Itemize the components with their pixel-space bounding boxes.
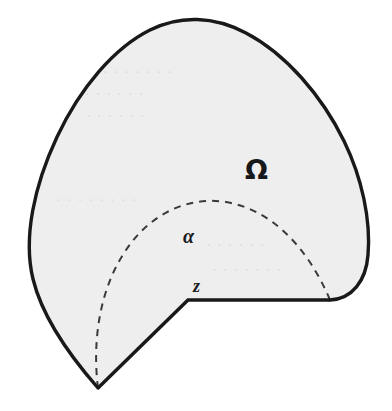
- bleed-line: · · · · · · · ·: [56, 192, 137, 208]
- bleed-line: · · · · · ·: [86, 108, 146, 124]
- bleed-line: · · · · · · ·: [212, 262, 282, 278]
- figure-canvas: · · · · · · · · · · · · · · · · · · · · …: [0, 0, 392, 411]
- label-z: z: [192, 276, 200, 296]
- label-omega: Ω: [245, 154, 268, 185]
- label-alpha: α: [183, 225, 195, 247]
- geometry-figure: · · · · · · · · · · · · · · · · · · · · …: [0, 0, 392, 411]
- bleed-line: · · · · · ·: [206, 237, 266, 253]
